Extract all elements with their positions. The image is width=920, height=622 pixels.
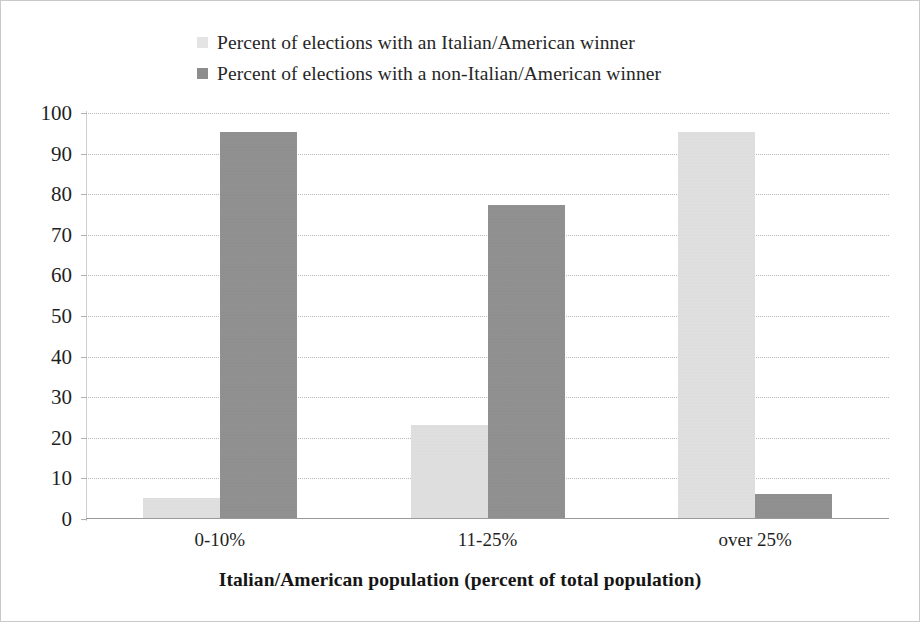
legend-swatch-light-icon (197, 37, 208, 48)
bar-dark-0 (220, 132, 297, 518)
bar-dark-2 (755, 494, 832, 518)
legend-entry-non-italian-american-winner: Percent of elections with a non-Italian/… (197, 58, 817, 89)
legend-swatch-dark-icon (197, 68, 208, 79)
y-axis-tick-mark (81, 478, 87, 479)
y-axis-tick-mark (81, 438, 87, 439)
y-axis-tick-label: 70 (51, 222, 72, 247)
gridline (86, 113, 889, 114)
x-axis-line (86, 518, 889, 519)
y-axis-tick-label: 20 (51, 425, 72, 450)
bar-dark-1 (488, 205, 565, 518)
x-axis-tick-label-2: over 25% (718, 529, 791, 551)
y-axis-tick-mark (81, 519, 87, 520)
y-axis-tick-label: 30 (51, 385, 72, 410)
y-axis-tick-mark (81, 154, 87, 155)
bar-light-0 (143, 498, 220, 518)
y-axis-tick-label: 50 (51, 304, 72, 329)
y-axis-tick-label: 60 (51, 263, 72, 288)
y-axis-tick-label: 80 (51, 182, 72, 207)
plot-area: 1009080706050403020100 (86, 113, 889, 519)
gridline (86, 194, 889, 195)
legend-entry-italian-american-winner: Percent of elections with an Italian/Ame… (197, 27, 817, 58)
y-axis-tick-mark (81, 113, 87, 114)
x-axis-tick-label-0: 0-10% (195, 529, 246, 551)
y-axis-tick-mark (81, 357, 87, 358)
bar-chart-figure: Percent of elections with an Italian/Ame… (0, 0, 920, 622)
y-axis-tick-mark (81, 275, 87, 276)
y-axis-tick-label: 10 (51, 466, 72, 491)
bar-light-1 (411, 425, 488, 518)
x-axis-title: Italian/American population (percent of … (1, 569, 919, 591)
legend-label-non-italian-american-winner: Percent of elections with a non-Italian/… (217, 63, 661, 85)
y-axis-tick-label: 0 (62, 507, 73, 532)
legend-label-italian-american-winner: Percent of elections with an Italian/Ame… (217, 32, 635, 54)
chart-legend: Percent of elections with an Italian/Ame… (197, 27, 817, 89)
y-axis-tick-label: 90 (51, 141, 72, 166)
bar-light-2 (678, 132, 755, 518)
y-axis-tick-label: 100 (41, 101, 73, 126)
x-axis-tick-label-1: 11-25% (458, 529, 517, 551)
y-axis-tick-mark (81, 397, 87, 398)
y-axis-tick-mark (81, 316, 87, 317)
gridline (86, 154, 889, 155)
y-axis-tick-label: 40 (51, 344, 72, 369)
y-axis-tick-mark (81, 235, 87, 236)
y-axis-tick-mark (81, 194, 87, 195)
